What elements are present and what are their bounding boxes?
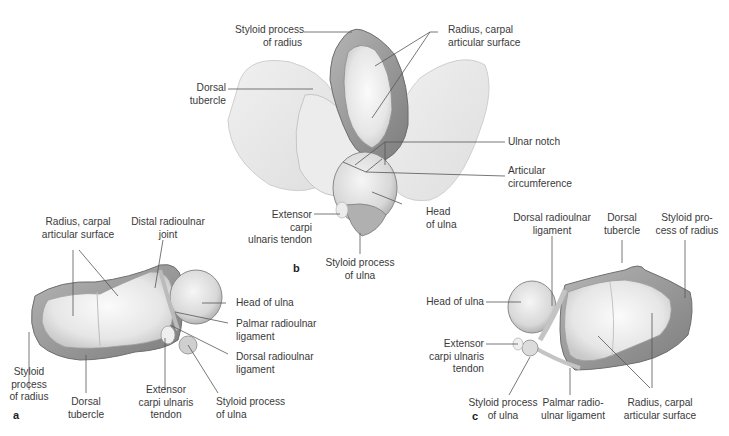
label-b-styloid-process-of-radius: Styloid process of radius (235, 24, 302, 49)
label-a-dorsal-radioulnar-ligament: Dorsal radioulnar ligament (236, 351, 314, 376)
label-b-articular-circumference: Articular circumference (508, 165, 572, 190)
label-a-distal-radioulnar-joint: Distal radioulnar joint (130, 216, 206, 241)
anatomy-figure: Styloid process of radius Radius, carpal… (0, 0, 729, 436)
panel-letter-c: c (472, 410, 478, 422)
label-a-head-of-ulna: Head of ulna (236, 297, 294, 310)
label-c-head-of-ulna: Head of ulna (418, 296, 484, 309)
label-a-styloid-process-of-ulna: Styloid process of ulna (216, 396, 285, 421)
panel-letter-b: b (293, 262, 300, 274)
label-b-radius-carpal-surface: Radius, carpal articular surface (448, 24, 520, 49)
label-c-radius-carpal-surface: Radius, carpal articular surface (620, 397, 700, 422)
panel-letter-a: a (13, 409, 19, 421)
label-a-dorsal-tubercle: Dorsal tubercle (62, 396, 110, 421)
label-b-head-of-ulna: Head of ulna (426, 206, 457, 231)
label-c-styloid-process-of-ulna: Styloid process of ulna (468, 397, 538, 422)
panel-b-illustration (228, 29, 489, 236)
label-a-palmar-radioulnar-ligament: Palmar radioulnar ligament (236, 318, 316, 343)
label-b-styloid-process-of-ulna: Styloid process of ulna (325, 257, 395, 282)
panel-a-illustration (31, 265, 222, 360)
label-b-dorsal-tubercle: Dorsal tubercle (180, 82, 226, 107)
label-c-dorsal-radioulnar-ligament: Dorsal radioulnar ligament (512, 212, 592, 237)
label-a-extensor-carpi-ulnaris-tendon: Extensor carpi ulnaris tendon (135, 384, 197, 422)
panel-c-illustration (508, 266, 692, 370)
label-c-styloid-process-of-radius: Styloid pro- cess of radius (652, 212, 722, 237)
label-a-styloid-process-of-radius: Styloid process of radius (6, 366, 52, 404)
label-a-radius-carpal-surface: Radius, carpal articular surface (40, 216, 116, 241)
label-b-ulnar-notch: Ulnar notch (508, 136, 560, 149)
label-b-extensor-carpi-ulnaris-tendon: Extensor carpi ulnaris tendon (246, 209, 312, 247)
label-c-extensor-carpi-ulnaris-tendon: Extensor carpi ulnaris tendon (418, 338, 484, 376)
label-c-palmar-radioulnar-ligament: Palmar radio- ulnar ligament (540, 397, 606, 422)
label-c-dorsal-tubercle: Dorsal tubercle (600, 212, 644, 237)
